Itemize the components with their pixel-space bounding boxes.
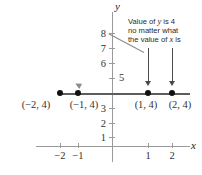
y-tick-label: 3 — [101, 103, 106, 114]
x-tick-label: −2 — [54, 150, 65, 161]
plot-point — [57, 90, 63, 96]
y-tick-mark — [109, 137, 115, 138]
annotation-line-1-prefix: Value of — [128, 17, 157, 26]
y-tick-mark — [109, 63, 115, 64]
x-tick-mark — [172, 143, 173, 148]
annotation-arrow-head — [145, 81, 151, 86]
point-label: (−2, 4) — [22, 99, 51, 110]
annotation-callout: Value of y is 4 no matter what the value… — [128, 17, 202, 45]
y-tick-label-five: 5 — [119, 72, 124, 83]
coordinate-plane-figure: x y −2 −1 1 2 8 7 6 3 2 1 5 (−2, 4) (−1,… — [0, 0, 202, 175]
y-tick-mark — [109, 108, 115, 109]
plot-point — [145, 90, 151, 96]
annotation-arrow-shaft — [148, 48, 149, 82]
y-tick-label: 7 — [101, 43, 106, 54]
y-tick-mark — [109, 48, 115, 49]
x-tick-label: −1 — [72, 150, 83, 161]
y-axis-label: y — [115, 0, 120, 12]
x-tick-label: 1 — [145, 150, 150, 161]
annotation-line-3-suffix: is — [173, 35, 181, 44]
x-tick-mark — [78, 143, 79, 148]
annotation-leader-arrow-head — [74, 81, 82, 89]
x-tick-label: 2 — [169, 150, 174, 161]
annotation-line-1-suffix: is 4 — [161, 17, 175, 26]
point-label: (2, 4) — [169, 99, 192, 110]
point-label: (1, 4) — [135, 99, 158, 110]
annotation-line-3-prefix: the value of — [128, 35, 169, 44]
plot-point — [75, 90, 81, 96]
annotation-arrow-shaft — [172, 48, 173, 82]
y-tick-label: 2 — [101, 118, 106, 129]
y-tick-mark — [109, 123, 115, 124]
annotation-line-2: no matter what — [128, 26, 178, 35]
y-tick-label: 1 — [101, 132, 106, 143]
y-tick-label: 8 — [101, 28, 106, 39]
y-tick-mark — [109, 78, 115, 79]
x-tick-mark — [60, 143, 61, 148]
y-tick-label: 6 — [101, 58, 106, 69]
annotation-arrow-head — [169, 81, 175, 86]
x-tick-mark — [148, 143, 149, 148]
plot-point — [169, 90, 175, 96]
point-label: (−1, 4) — [70, 99, 99, 110]
x-axis-label: x — [191, 139, 196, 151]
